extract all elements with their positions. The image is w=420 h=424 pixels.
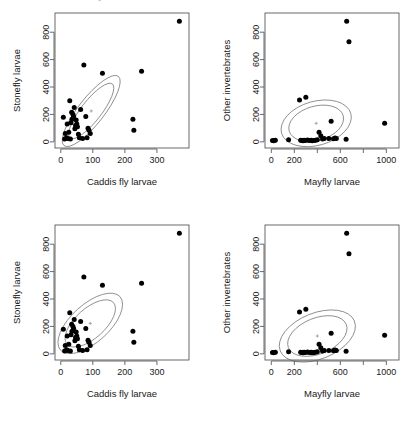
y-axis: 0200400600800	[251, 237, 264, 357]
svg-text:0: 0	[41, 139, 51, 144]
svg-text:800: 800	[251, 237, 261, 252]
y-axis: 0200400600800	[251, 25, 264, 145]
panel-bottom-right: 02006001000Mayfly larvae0200400600800Oth…	[210, 212, 420, 424]
svg-text:200: 200	[287, 367, 302, 377]
svg-text:0: 0	[251, 351, 261, 356]
panel-bottom-left: 0100200300Caddis fly larvae0200400600800…	[0, 212, 210, 424]
x-axis: 02006001000	[269, 361, 397, 377]
x-axis-label: Caddis fly larvae	[87, 388, 157, 399]
svg-text:0: 0	[58, 367, 63, 377]
svg-text:400: 400	[41, 291, 51, 306]
x-axis: 0100200300	[58, 361, 164, 377]
svg-text:100: 100	[85, 367, 100, 377]
density-contours	[276, 92, 357, 154]
svg-text:200: 200	[41, 107, 51, 122]
svg-text:0: 0	[269, 367, 274, 377]
x-axis-label: Mayfly larvae	[304, 176, 360, 187]
svg-text:0: 0	[41, 351, 51, 356]
svg-text:200: 200	[251, 319, 261, 334]
x-axis: 0100200300	[58, 149, 164, 165]
svg-text:200: 200	[117, 367, 132, 377]
svg-text:1000: 1000	[376, 155, 396, 165]
data-points	[270, 19, 387, 144]
density-contours	[48, 283, 133, 365]
x-axis: 02006001000	[269, 149, 397, 165]
svg-text:600: 600	[333, 367, 348, 377]
y-axis-label: Stonefly larvae	[11, 49, 22, 112]
svg-text:0: 0	[269, 155, 274, 165]
svg-text:600: 600	[333, 155, 348, 165]
plot-box	[265, 13, 399, 148]
svg-text:800: 800	[251, 25, 261, 40]
svg-text:300: 300	[149, 367, 164, 377]
y-axis-label: Stonefly larvae	[11, 261, 22, 324]
svg-text:100: 100	[85, 155, 100, 165]
x-axis-label: Caddis fly larvae	[87, 176, 157, 187]
svg-text:600: 600	[41, 52, 51, 67]
svg-text:600: 600	[251, 52, 261, 67]
plot-box	[265, 225, 399, 360]
svg-text:400: 400	[251, 291, 261, 306]
svg-text:1000: 1000	[376, 367, 396, 377]
svg-text:0: 0	[58, 155, 63, 165]
plot-grid: 0100200300Caddis fly larvae0200400600800…	[0, 0, 420, 424]
svg-text:200: 200	[41, 319, 51, 334]
svg-text:0: 0	[251, 139, 261, 144]
svg-text:200: 200	[287, 155, 302, 165]
y-axis-label: Other invertebrates	[221, 252, 232, 334]
svg-text:800: 800	[41, 237, 51, 252]
svg-text:600: 600	[251, 264, 261, 279]
data-points	[61, 19, 182, 142]
y-axis: 0200400600800	[41, 25, 54, 145]
data-points	[61, 231, 182, 354]
svg-text:800: 800	[41, 25, 51, 40]
svg-text:600: 600	[41, 264, 51, 279]
x-axis-label: Mayfly larvae	[304, 388, 360, 399]
panel-top-right: 02006001000Mayfly larvae0200400600800Oth…	[210, 0, 420, 212]
svg-text:200: 200	[251, 107, 261, 122]
svg-text:400: 400	[251, 79, 261, 94]
y-axis: 0200400600800	[41, 237, 54, 357]
svg-text:300: 300	[149, 155, 164, 165]
y-axis-label: Other invertebrates	[221, 40, 232, 122]
data-points	[270, 231, 387, 356]
svg-text:400: 400	[41, 79, 51, 94]
panel-top-left: 0100200300Caddis fly larvae0200400600800…	[0, 0, 210, 212]
svg-text:200: 200	[117, 155, 132, 165]
